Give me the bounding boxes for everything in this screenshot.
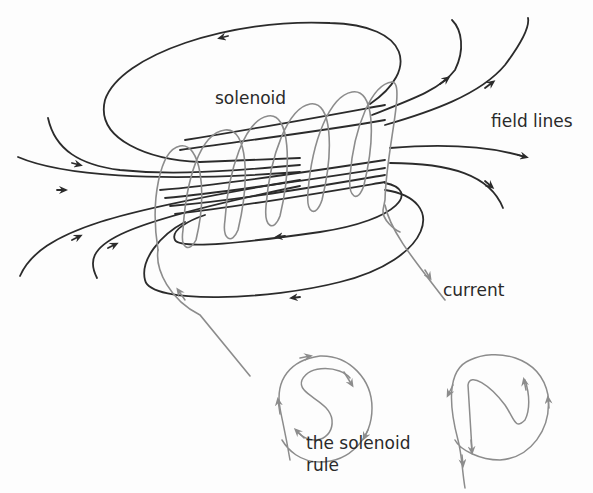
solenoid-coil [155, 82, 445, 376]
field-lines [18, 18, 528, 298]
current-label: current [443, 280, 504, 300]
diagram-canvas [0, 0, 593, 493]
n-rule-symbol [448, 355, 549, 488]
field-lines-label: field lines [491, 111, 573, 131]
solenoid-label: solenoid [215, 88, 286, 108]
solenoid-rule-label-line2: rule [306, 455, 339, 475]
solenoid-rule-label-line1: the solenoid [306, 433, 410, 453]
solenoid-diagram: solenoid field lines current the solenoi… [0, 0, 593, 493]
